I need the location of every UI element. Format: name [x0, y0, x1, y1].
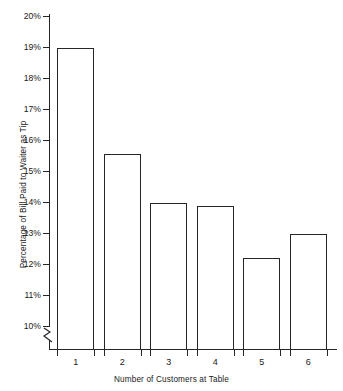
y-axis-tick	[43, 78, 49, 79]
bar-5	[243, 258, 280, 349]
bar-1	[57, 48, 94, 350]
y-axis-tick-label-text: 20%	[1, 11, 41, 21]
y-axis-tick	[43, 202, 49, 203]
bar-chart: 10%11%12%13%14%15%16%17%18%19%20% 123456…	[0, 0, 343, 391]
y-axis-tick	[43, 264, 49, 265]
x-axis-line	[49, 349, 337, 350]
x-axis-tick	[187, 350, 188, 356]
y-axis-tick-label-text: 18%	[1, 73, 41, 83]
y-axis-tick	[43, 233, 49, 234]
x-axis-tick	[327, 350, 328, 356]
y-axis-tick	[43, 295, 49, 296]
y-axis-title: Percentage of Bill Paid to Waiter as Tip	[19, 85, 28, 305]
bar-4	[197, 206, 234, 349]
bar-3	[150, 203, 187, 350]
y-axis-tick-label: 18%	[0, 73, 41, 85]
x-axis-tick-label: 4	[203, 357, 227, 367]
x-axis-tick-label: 1	[64, 357, 88, 367]
x-axis-title: Number of Customers at Table	[0, 375, 343, 384]
y-axis-tick	[43, 16, 49, 17]
y-axis-tick	[43, 140, 49, 141]
x-axis-tick-label: 3	[157, 357, 181, 367]
y-axis-tick	[43, 171, 49, 172]
x-axis-tick	[197, 350, 198, 356]
y-axis-tick	[43, 109, 49, 110]
y-axis-tick	[43, 47, 49, 48]
y-axis-tick-label-text: 19%	[1, 42, 41, 52]
x-axis-tick	[280, 350, 281, 356]
y-axis-tick-label: 19%	[0, 42, 41, 54]
x-axis-tick-label: 2	[110, 357, 134, 367]
x-axis-tick	[94, 350, 95, 356]
y-axis-tick	[43, 326, 49, 327]
bar-2	[104, 154, 141, 349]
y-axis-tick-label: 20%	[0, 11, 41, 23]
x-axis-tick	[57, 350, 58, 356]
x-axis-tick	[290, 350, 291, 356]
x-axis-tick-label: 6	[296, 357, 320, 367]
y-axis-line	[49, 14, 50, 327]
x-axis-tick	[234, 350, 235, 356]
x-axis-tick-label: 5	[250, 357, 274, 367]
y-axis-tick-label: 10%	[0, 321, 41, 333]
plot-area: 10%11%12%13%14%15%16%17%18%19%20% 123456	[0, 0, 343, 391]
x-axis-tick	[104, 350, 105, 356]
x-axis-tick	[243, 350, 244, 356]
x-axis-tick	[141, 350, 142, 356]
bar-6	[290, 234, 327, 350]
x-axis-tick	[150, 350, 151, 356]
y-axis-tick-label-text: 10%	[1, 321, 41, 331]
